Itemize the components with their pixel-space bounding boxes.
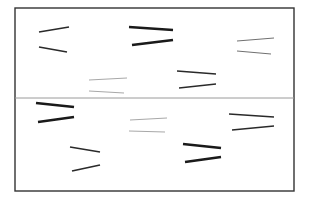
line-segment-lower xyxy=(89,91,124,93)
pair-2 xyxy=(129,27,173,45)
line-segment-upper xyxy=(237,38,274,41)
pair-4 xyxy=(89,78,127,93)
pair-1 xyxy=(39,27,69,52)
line-segment-lower xyxy=(185,157,221,162)
line-segment-upper xyxy=(183,144,221,148)
line-segment-upper xyxy=(177,71,216,74)
pair-10 xyxy=(183,144,221,162)
pair-8 xyxy=(229,114,274,130)
line-segment-upper xyxy=(70,147,100,152)
line-segment-upper xyxy=(36,103,74,107)
line-segment-lower xyxy=(179,84,216,88)
pair-7 xyxy=(129,118,167,132)
line-segment-lower xyxy=(232,126,274,130)
diagram-canvas xyxy=(0,0,309,208)
pair-9 xyxy=(70,147,100,171)
line-segment-lower xyxy=(38,117,74,122)
line-segment-lower xyxy=(132,40,173,45)
line-segment-lower xyxy=(72,165,100,171)
line-segment-lower xyxy=(237,51,271,54)
line-segment-upper xyxy=(130,118,167,120)
pair-3 xyxy=(237,38,274,54)
line-segment-upper xyxy=(229,114,274,117)
frame-border xyxy=(15,8,294,191)
line-segment-upper xyxy=(39,27,69,32)
pair-6 xyxy=(36,103,74,122)
line-segment-lower xyxy=(129,131,165,132)
line-pairs-group xyxy=(36,27,274,171)
line-segment-upper xyxy=(89,78,127,80)
line-segment-lower xyxy=(39,47,67,52)
pair-5 xyxy=(177,71,216,88)
line-segment-upper xyxy=(129,27,173,30)
